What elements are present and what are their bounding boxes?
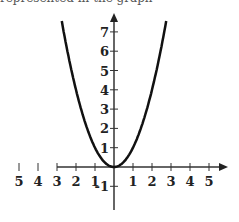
x-tick-label: 3 — [166, 174, 175, 189]
x-tick-label: 1 — [128, 174, 137, 189]
y-tick-label: 1 — [100, 141, 109, 156]
x-tick-label: 2 — [147, 174, 156, 189]
x-tick-label: 2 — [71, 174, 80, 189]
y-tick-label: 4 — [100, 83, 109, 98]
y-tick-label: 6 — [100, 44, 109, 59]
y-tick-label: 2 — [100, 121, 109, 136]
x-tick-label: 3 — [52, 174, 61, 189]
y-axis-arrow-icon — [110, 13, 118, 22]
y-tick-label: 5 — [100, 64, 109, 79]
x-tick-label: 4 — [185, 174, 194, 189]
x-tick-label: 4 — [33, 174, 42, 189]
x-tick-label: 5 — [204, 174, 213, 189]
y-tick-label: 3 — [100, 102, 109, 117]
y-tick-label: -1 — [95, 179, 109, 194]
x-axis-arrow-icon — [219, 163, 228, 171]
parabola-chart: 5432112345 -11234567 — [0, 0, 239, 222]
x-tick-label: 5 — [14, 174, 23, 189]
y-tick-label: 7 — [100, 25, 109, 40]
